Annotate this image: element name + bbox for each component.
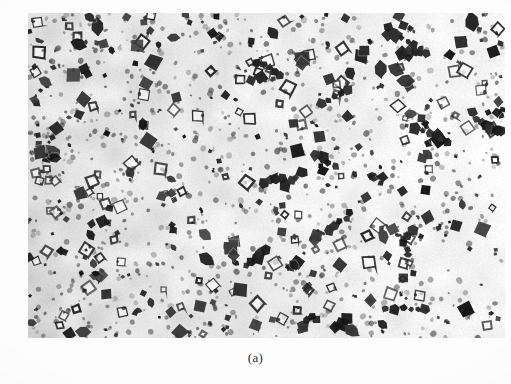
- figure-page: (a): [0, 0, 511, 384]
- micrograph-image: [28, 13, 505, 338]
- micrograph-plate: [28, 13, 505, 338]
- figure-caption: (a): [0, 350, 511, 366]
